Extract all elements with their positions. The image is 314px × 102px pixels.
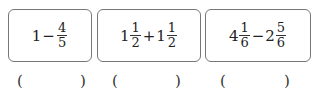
problem-1-box: 1 − 4 5 [8,9,92,62]
problem-3-box: 4 1 6 − 2 5 6 [205,9,311,62]
problem-2-expression: 1 1 2 + 1 1 2 [120,21,178,50]
operator: − [252,27,265,45]
problem-1-expression: 1 − 4 5 [32,21,68,50]
term-2-whole: 2 [265,27,275,45]
numerator: 1 [239,21,249,36]
problem-3-expression: 4 1 6 − 2 5 6 [229,21,287,50]
term-2-fraction: 4 5 [57,21,67,50]
answer-1-close-paren: ) [80,72,86,90]
answer-1-open-paren: ( [17,72,23,90]
answer-2-open-paren: ( [112,72,118,90]
term-1-fraction: 1 6 [239,21,249,50]
numerator: 1 [167,21,177,36]
answer-3-open-paren: ( [220,72,226,90]
term-2-fraction: 1 2 [167,21,177,50]
numerator: 4 [57,21,67,36]
term-1-whole: 1 [120,27,130,45]
denominator: 6 [240,36,248,50]
denominator: 2 [131,36,139,50]
term-1-whole: 4 [229,27,239,45]
answer-2-close-paren: ) [175,72,181,90]
answer-3-close-paren: ) [284,72,290,90]
term-1-whole: 1 [32,27,42,45]
numerator: 5 [276,21,286,36]
numerator: 1 [130,21,140,36]
denominator: 5 [58,36,66,50]
term-1-fraction: 1 2 [130,21,140,50]
denominator: 6 [277,36,285,50]
term-2-whole: 1 [156,27,166,45]
denominator: 2 [168,36,176,50]
term-2-fraction: 5 6 [276,21,286,50]
problem-2-box: 1 1 2 + 1 1 2 [97,9,201,62]
operator: − [42,27,55,45]
operator: + [143,27,156,45]
